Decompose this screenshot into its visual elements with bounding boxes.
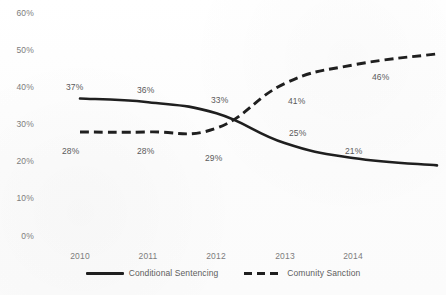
line-chart: 60% 50% 40% 30% 20% 10% 0% 2010 2011 201… (0, 0, 446, 295)
data-label-cs-2012: 33% (211, 95, 228, 105)
legend-entry-comunity-sanction[interactable]: Comunity Sanction (244, 268, 360, 278)
data-label-cs-2013: 25% (289, 128, 306, 138)
data-label-cs-2014: 21% (345, 146, 362, 156)
legend-entry-conditional-sentencing[interactable]: Conditional Sentencing (86, 268, 219, 278)
data-label-ca-2012: 29% (205, 153, 222, 163)
legend-swatch-dashed-line-icon (244, 272, 282, 275)
series-line-comunity-sanction (80, 54, 437, 134)
data-label-ca-2013: 41% (288, 96, 305, 106)
legend-swatch-solid-line-icon (86, 272, 124, 275)
data-label-ca-2010: 28% (62, 146, 79, 156)
legend-label-comunity-sanction: Comunity Sanction (287, 268, 360, 278)
data-label-cs-2010: 37% (66, 82, 83, 92)
data-label-ca-2014: 46% (372, 72, 389, 82)
data-label-ca-2011: 28% (137, 146, 154, 156)
chart-legend: Conditional Sentencing Comunity Sanction (0, 268, 446, 278)
legend-label-conditional-sentencing: Conditional Sentencing (129, 268, 219, 278)
data-label-cs-2011: 36% (137, 85, 154, 95)
series-line-conditional-sentencing (80, 98, 437, 165)
